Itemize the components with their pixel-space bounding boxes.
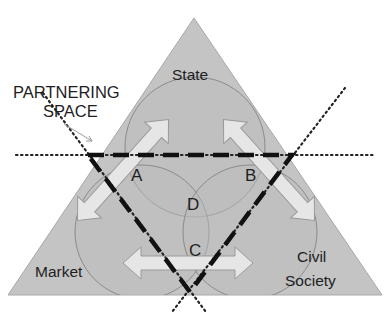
market-label: Market (35, 263, 83, 280)
region-c-label: C (189, 241, 201, 260)
civil-society-label-line1: Civil (297, 248, 326, 265)
pointer-arrow-icon (64, 124, 92, 141)
civil-society-label-line2: Society (285, 272, 336, 289)
region-a-label: A (131, 166, 143, 185)
partnering-space-label-line2: SPACE (43, 102, 98, 120)
region-d-label: D (187, 195, 199, 214)
partnering-space-label-line1: PARTNERING (13, 83, 120, 101)
region-b-label: B (245, 166, 256, 185)
state-label: State (172, 66, 208, 83)
partnering-space-diagram: PARTNERING SPACE State Market Civil Soci… (0, 0, 390, 321)
